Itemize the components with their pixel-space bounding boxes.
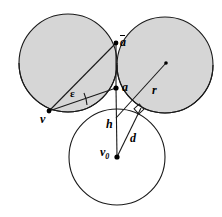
label-v0-subscript: 0 [105,152,109,161]
label-h: h [106,118,113,130]
figure-canvas: a a r h d v v0 ε [0,0,222,217]
point-a-bar-dot [114,41,119,46]
label-a-bar: a [120,36,126,48]
label-v0: v0 [100,146,109,161]
label-d: d [130,132,136,144]
label-v: v [40,113,45,125]
point-v-dot [47,109,52,114]
label-a-bar-text: a [120,36,126,48]
point-v0-dot [114,154,119,159]
point-a-dot [113,85,118,90]
label-r: r [152,84,157,96]
geometry-diagram-svg [0,0,222,217]
label-a: a [122,81,128,93]
point-r-tip-dot [164,61,168,65]
label-epsilon: ε [70,88,75,99]
